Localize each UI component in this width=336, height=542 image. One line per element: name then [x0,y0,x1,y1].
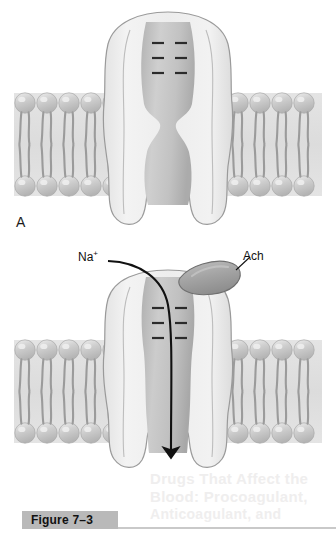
panel-b-illustration [0,245,336,495]
sodium-ion-symbol: Na [78,250,93,264]
panel-b-open-channel: B [0,245,336,495]
panel-a-closed-channel: A [0,0,336,245]
ion-channel-protein-open [103,270,232,467]
sodium-ion-charge: + [93,249,98,258]
figure-7-3: Drugs That Affect the Blood: Procoagulan… [0,0,336,542]
figure-caption-rule [118,527,336,529]
ion-channel-protein-closed [103,12,232,224]
figure-caption-label: Figure 7–3 [31,513,93,527]
panel-a-illustration [0,0,336,245]
sodium-ion-label: Na+ [78,249,98,264]
acetylcholine-molecule [179,261,240,294]
acetylcholine-label: Ach [243,249,264,263]
panel-letter-a: A [16,214,26,230]
bleed-through-line-3: Anticoagulant, and [150,506,281,522]
